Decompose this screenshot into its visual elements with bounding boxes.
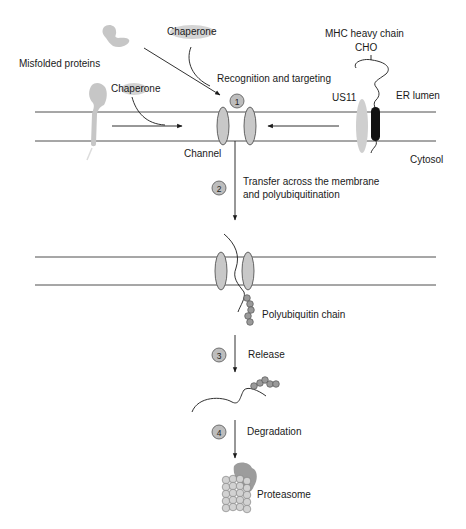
us11-label: US11	[332, 92, 357, 103]
step-2-number: 2	[217, 184, 222, 194]
er-lumen-label: ER lumen	[396, 90, 440, 101]
step-2-badge: 2	[212, 181, 226, 195]
channel-right-subunit	[244, 107, 256, 145]
cho-label: CHO	[355, 42, 377, 53]
proteasome-label: Proteasome	[257, 489, 311, 500]
step-3-badge: 3	[212, 348, 226, 362]
step-4-number: 4	[217, 428, 222, 438]
us11-icon	[356, 99, 368, 153]
channel-right-subunit	[242, 252, 254, 290]
misfolded-protein-tail	[87, 148, 92, 160]
mhc-transmembrane-icon	[371, 107, 380, 141]
recognition-label: Recognition and targeting	[217, 73, 331, 84]
step-4-badge: 4	[212, 425, 226, 439]
erad-pathway-diagram: Chaperone Misfolded proteins Chaperone R…	[0, 0, 466, 529]
channel-top	[217, 107, 256, 145]
released-polyubiquitin-icon	[251, 377, 280, 390]
released-chain	[192, 388, 266, 412]
mhc-cytosolic-tail	[371, 141, 376, 153]
step-1-badge: 1	[230, 94, 244, 108]
transfer-label-line2: and polyubiquitination	[243, 189, 340, 200]
misfolded-proteins-label: Misfolded proteins	[19, 58, 100, 69]
chaperone-top-label: Chaperone	[167, 26, 217, 37]
degradation-label: Degradation	[247, 426, 301, 437]
chaperone-left-curve	[132, 97, 165, 125]
polyubiquitin-chain-icon	[244, 295, 255, 326]
misfolded-protein-floating-icon	[103, 25, 130, 47]
misfolded-protein-membrane-icon	[89, 83, 107, 146]
mhc-heavy-chain-label: MHC heavy chain	[325, 28, 404, 39]
chaperone-left-label: Chaperone	[111, 83, 161, 94]
channel-left-subunit	[217, 107, 229, 145]
transfer-label-line1: Transfer across the membrane	[243, 176, 380, 187]
polyubiquitin-label: Polyubiquitin chain	[262, 309, 345, 320]
channel-left-subunit	[215, 252, 227, 290]
release-label: Release	[248, 349, 285, 360]
chaperone-top-curve-arrow	[189, 47, 210, 86]
step-1-number: 1	[235, 97, 240, 107]
channel-middle	[215, 252, 254, 290]
step-3-number: 3	[217, 351, 222, 361]
cytosol-label: Cytosol	[410, 154, 443, 165]
proteasome-icon	[222, 462, 257, 512]
channel-label: Channel	[184, 148, 221, 159]
